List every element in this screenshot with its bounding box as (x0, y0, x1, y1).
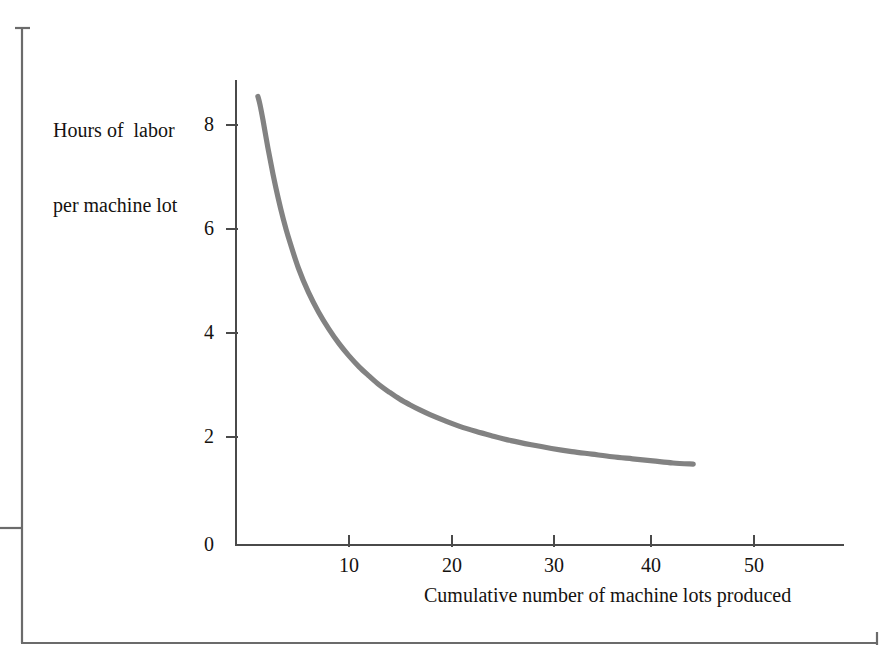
y-tick-label-6: 6 (192, 217, 214, 240)
y-axis-title: Hours of labor per machine lot (53, 68, 177, 268)
y-axis-title-line-1: Hours of labor (53, 118, 177, 143)
x-tick-label-10: 10 (329, 554, 369, 577)
y-tick-label-0: 0 (192, 533, 214, 556)
x-tick-label-30: 30 (534, 554, 574, 577)
y-tick-label-2: 2 (192, 425, 214, 448)
y-axis-title-line-2: per machine lot (53, 193, 177, 218)
x-tick-label-50: 50 (734, 554, 774, 577)
x-axis-title: Cumulative number of machine lots produc… (424, 583, 791, 608)
figure-canvas: Hours of labor per machine lot Cumulativ… (0, 0, 882, 660)
x-tick-label-40: 40 (631, 554, 671, 577)
learning-curve-line (258, 96, 693, 464)
x-tick-label-20: 20 (432, 554, 472, 577)
y-tick-label-8: 8 (192, 113, 214, 136)
y-tick-label-4: 4 (192, 321, 214, 344)
